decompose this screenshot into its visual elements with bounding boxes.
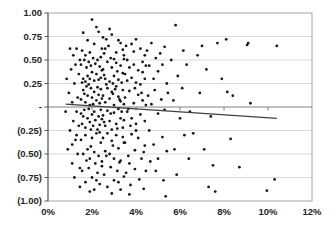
data-point	[106, 186, 109, 189]
data-point	[98, 123, 101, 126]
data-point	[128, 90, 131, 93]
data-point	[119, 42, 122, 45]
data-point	[125, 171, 128, 174]
plot-area: 1.000.750.500.25-(0.25)(0.50)(0.75)(1.00…	[0, 0, 336, 230]
data-point	[196, 54, 199, 57]
data-point	[231, 94, 234, 97]
data-point	[108, 153, 111, 156]
data-point	[85, 159, 88, 162]
data-point	[115, 51, 118, 54]
data-point	[88, 157, 91, 160]
data-point	[84, 101, 87, 104]
data-point	[124, 96, 127, 99]
data-point	[150, 42, 153, 45]
data-point	[212, 164, 215, 167]
data-point	[106, 87, 109, 90]
data-point	[140, 92, 143, 95]
data-point	[101, 47, 104, 50]
data-point	[170, 59, 173, 62]
data-point	[68, 92, 71, 95]
data-point	[88, 51, 91, 54]
x-tick-label: 6%	[173, 206, 187, 217]
data-point	[175, 173, 178, 176]
data-point	[273, 178, 276, 181]
data-point	[220, 77, 223, 80]
data-point	[108, 120, 111, 123]
data-point	[209, 115, 212, 118]
data-point	[95, 132, 98, 135]
data-point	[72, 120, 75, 123]
data-point	[98, 183, 101, 186]
data-point	[84, 134, 87, 137]
data-point	[95, 73, 98, 76]
data-point	[118, 161, 121, 164]
data-point	[91, 18, 94, 21]
data-point	[121, 126, 124, 129]
data-point	[124, 73, 127, 76]
data-point	[98, 65, 101, 68]
data-point	[95, 179, 98, 182]
data-point	[141, 71, 144, 74]
data-point	[119, 64, 122, 67]
data-point	[126, 110, 129, 113]
data-point	[143, 144, 146, 147]
data-point	[93, 43, 96, 46]
data-point	[93, 79, 96, 82]
data-point	[192, 132, 195, 135]
data-point	[112, 92, 115, 95]
data-point	[71, 143, 74, 146]
data-point	[149, 160, 152, 163]
data-point	[266, 189, 269, 192]
data-point	[117, 39, 120, 42]
data-point	[86, 75, 89, 78]
data-point	[71, 162, 74, 165]
data-point	[101, 160, 104, 163]
data-point	[102, 137, 105, 140]
data-point	[150, 103, 153, 106]
data-point	[102, 114, 105, 117]
data-point	[182, 49, 185, 52]
data-point	[181, 87, 184, 90]
data-point	[127, 154, 130, 157]
data-point	[142, 187, 145, 190]
y-tick-label: (0.25)	[17, 125, 42, 136]
data-point	[125, 45, 128, 48]
data-point	[216, 42, 219, 45]
data-point	[164, 195, 167, 198]
data-point	[161, 136, 164, 139]
data-point	[99, 141, 102, 144]
y-tick-label: 0.25	[24, 78, 43, 89]
x-tick-label: 0%	[41, 206, 55, 217]
data-point	[102, 36, 105, 39]
data-point	[93, 188, 96, 191]
data-point	[99, 108, 102, 111]
y-tick-label: 0.75	[24, 31, 43, 42]
data-point	[103, 52, 106, 55]
data-point	[120, 110, 123, 113]
data-point	[92, 124, 95, 127]
data-point	[126, 59, 129, 62]
data-point	[142, 151, 145, 154]
data-point	[91, 113, 94, 116]
data-point	[97, 78, 100, 81]
y-tick-label: 1.00	[24, 7, 43, 18]
data-point	[129, 184, 132, 187]
data-point	[86, 39, 89, 42]
y-tick-label: (0.50)	[17, 148, 42, 159]
data-point	[94, 162, 97, 165]
data-point	[165, 82, 168, 85]
data-point	[134, 168, 137, 171]
data-point	[157, 157, 160, 160]
data-point	[98, 131, 101, 134]
data-point	[109, 57, 112, 60]
data-point	[134, 87, 137, 90]
data-point	[74, 63, 77, 66]
data-point	[92, 57, 95, 60]
data-point	[198, 92, 201, 95]
data-point	[118, 98, 121, 101]
data-point	[104, 150, 107, 153]
data-point	[128, 66, 131, 69]
data-point	[121, 136, 124, 139]
data-point	[116, 70, 119, 73]
data-point	[103, 173, 106, 176]
